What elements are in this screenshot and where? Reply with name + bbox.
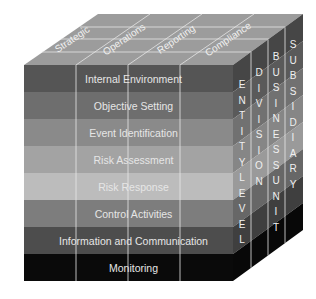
side-letter: E [239,219,246,230]
side-letter: T [273,222,279,233]
side-letter: V [239,203,246,214]
side-letter: U [272,67,279,78]
side-letter: I [258,114,261,125]
side-letter: U [272,175,279,186]
side-letter: T [239,141,245,152]
side-letter: N [255,176,262,187]
side-letter: N [272,113,279,124]
side-letter: D [255,67,262,78]
front-face: Internal EnvironmentObjective SettingEve… [24,65,233,281]
side-letter: I [275,98,278,109]
side-letter: S [256,129,263,140]
side-letter: I [241,126,244,137]
side-letter: N [238,95,245,106]
side-letter: Y [239,157,246,168]
side-letter: S [290,86,297,97]
side-letter: E [273,129,280,140]
band-label: Control Activities [95,208,173,220]
band-label: Event Identification [89,127,178,139]
side-letter: E [239,79,246,90]
band-label: Risk Assessment [94,154,174,166]
side-letter: S [273,82,280,93]
side-letter: I [292,101,295,112]
side-letter: B [273,51,280,62]
side-letter: S [273,160,280,171]
band-label: Information and Communication [59,235,208,247]
side-letter: D [289,117,296,128]
side-letter: S [290,39,297,50]
band-label: Monitoring [109,262,158,274]
side-letter: I [292,132,295,143]
side-letter: I [258,83,261,94]
band-label: Internal Environment [85,73,182,85]
side-letter: R [289,163,296,174]
side-letter: B [290,70,297,81]
side-letter: I [275,206,278,217]
side-letter: S [273,144,280,155]
side-letter: E [239,188,246,199]
side-letter: I [258,145,261,156]
side-letter: V [256,98,263,109]
side-letter: L [239,172,245,183]
side-letter: N [272,191,279,202]
side-letter: O [255,160,263,171]
side-letter: U [289,55,296,66]
coso-erm-cube: StrategicOperationsReportingCompliance I… [0,0,316,299]
side-letter: L [239,234,245,245]
side-letter: Y [290,179,297,190]
side-letter: A [290,148,297,159]
side-letter: T [239,110,245,121]
band-label: Objective Setting [94,100,174,112]
band-label: Risk Response [98,181,169,193]
